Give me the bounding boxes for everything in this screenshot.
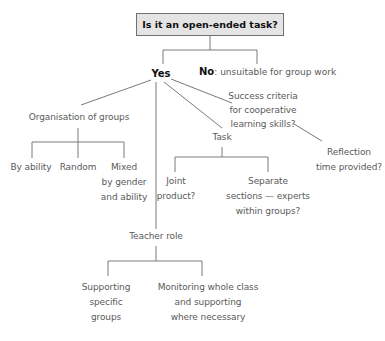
no-label: No — [199, 66, 214, 77]
org-mixed: Mixed by gender and ability — [101, 160, 147, 205]
task-separate-sections: Separate sections — experts within group… — [226, 174, 310, 219]
org-random: Random — [60, 160, 97, 175]
no-answer: No: unsuitable for group work — [199, 66, 336, 77]
task-node: Task — [212, 130, 231, 145]
root-question: Is it an open-ended task? — [142, 19, 278, 30]
org-by-ability: By ability — [11, 160, 52, 175]
teacher-supporting-groups: Supporting specific groups — [82, 280, 131, 325]
teacher-role-node: Teacher role — [129, 229, 183, 244]
reflection-node: Reflection time provided? — [316, 145, 382, 175]
teacher-monitoring-class: Monitoring whole class and supporting wh… — [158, 280, 259, 325]
task-joint-product: Joint product? — [157, 174, 196, 204]
success-criteria-node: Success criteria for cooperative learnin… — [228, 89, 297, 131]
root-question-box: Is it an open-ended task? — [136, 13, 284, 36]
yes-label: Yes — [152, 66, 171, 81]
no-note: : unsuitable for group work — [214, 67, 336, 77]
organisation-node: Organisation of groups — [29, 110, 130, 125]
